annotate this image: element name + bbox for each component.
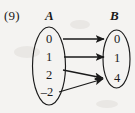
set-b-element-0: 0 xyxy=(107,33,127,46)
set-a-label: A xyxy=(45,9,54,22)
set-b-label: B xyxy=(110,9,119,22)
set-b-element-4: 4 xyxy=(107,72,127,85)
set-a-element-0: 0 xyxy=(39,33,59,46)
set-a-element-1: 1 xyxy=(39,51,59,64)
mapping-diagram-figure: (9) A B 0 1 2 –2 0 1 4 xyxy=(0,0,135,113)
arrow-2-to-4 xyxy=(63,70,103,78)
arrow-minus2-to-4 xyxy=(59,79,103,92)
set-b-element-1: 1 xyxy=(107,52,127,65)
set-a-element-minus2: –2 xyxy=(37,86,57,99)
set-a-element-2: 2 xyxy=(39,69,59,82)
figure-number: (9) xyxy=(4,9,20,22)
